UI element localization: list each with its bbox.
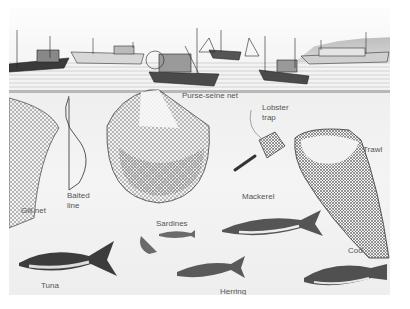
- lobster: [235, 156, 255, 170]
- tuna-fish-icon: [19, 241, 117, 276]
- label-baited-line-2: line: [67, 201, 79, 210]
- label-sardines: Sardines: [156, 219, 188, 228]
- lobster-trap: [259, 132, 285, 158]
- boat-icon: [199, 30, 259, 60]
- fishing-illustration: Purse-seine net Lobster trap Trawl Gill …: [9, 8, 390, 295]
- label-lobster-trap-line1: Lobster: [262, 103, 289, 112]
- label-baited-line-1: Baited: [67, 191, 90, 200]
- baited-line: [65, 96, 86, 190]
- label-purse-seine-net: Purse-seine net: [182, 91, 238, 100]
- cod-fish-icon: [304, 264, 387, 285]
- boat-icon: [9, 30, 69, 72]
- sardine-fish-icon: [140, 230, 195, 254]
- boat-icon: [259, 36, 309, 84]
- label-gill-net: Gill net: [21, 206, 46, 215]
- label-mackerel: Mackerel: [242, 192, 274, 201]
- drawing-layer: [9, 8, 390, 295]
- label-herring: Herring: [220, 287, 246, 295]
- herring-fish-icon: [177, 256, 245, 278]
- label-tuna: Tuna: [41, 281, 59, 290]
- boat-icon: [71, 38, 144, 64]
- boat-icon: [146, 28, 219, 86]
- label-trawl: Trawl: [363, 145, 382, 154]
- mackerel-fish-icon: [222, 210, 323, 236]
- boat-icon: [301, 32, 389, 64]
- label-cod: Cod: [348, 246, 363, 255]
- label-lobster-trap-line2: trap: [262, 113, 276, 122]
